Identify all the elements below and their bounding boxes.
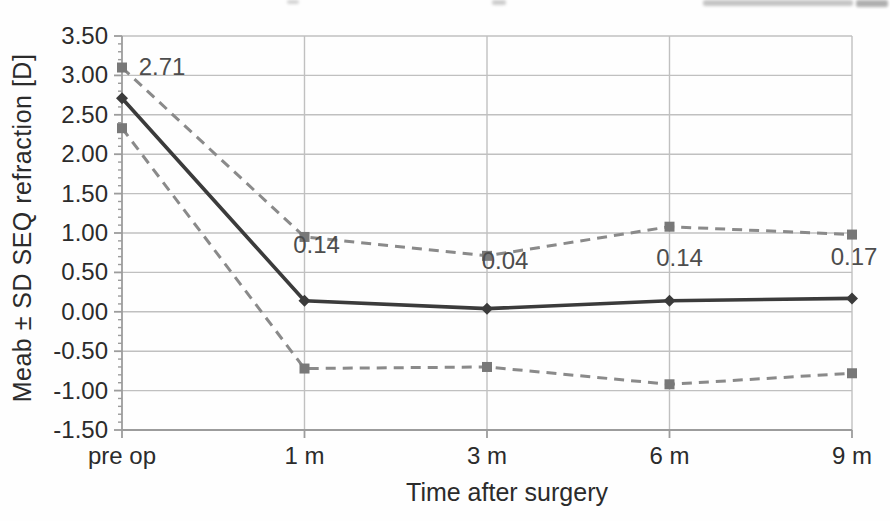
square-marker-mean-minus-sd bbox=[117, 123, 127, 133]
data-label: 0.14 bbox=[656, 244, 703, 271]
y-tick-label: 0.00 bbox=[61, 298, 108, 325]
x-tick-label: 3 m bbox=[467, 442, 507, 469]
data-label: 0.14 bbox=[293, 231, 340, 258]
x-tick-label: 6 m bbox=[649, 442, 689, 469]
chart-figure: 3.503.002.502.001.501.000.500.00-0.50-1.… bbox=[0, 0, 890, 521]
y-tick-label: 1.50 bbox=[61, 180, 108, 207]
y-tick-label: 2.50 bbox=[61, 101, 108, 128]
square-marker-mean-minus-sd bbox=[482, 362, 492, 372]
y-tick-label: 2.00 bbox=[61, 140, 108, 167]
data-label: 2.71 bbox=[139, 53, 186, 80]
y-tick-label: -0.50 bbox=[53, 337, 108, 364]
y-tick-label: -1.50 bbox=[53, 416, 108, 443]
x-tick-label: 9 m bbox=[832, 442, 872, 469]
y-tick-label: 0.50 bbox=[61, 258, 108, 285]
y-tick-label: -1.00 bbox=[53, 377, 108, 404]
diamond-marker-mean bbox=[846, 292, 858, 304]
diamond-marker-mean bbox=[481, 303, 493, 315]
square-marker-mean-minus-sd bbox=[300, 364, 310, 374]
square-marker-mean-minus-sd bbox=[847, 368, 857, 378]
line-chart: 3.503.002.502.001.501.000.500.00-0.50-1.… bbox=[0, 0, 890, 521]
square-marker-mean-plus-sd bbox=[847, 230, 857, 240]
y-tick-label: 3.00 bbox=[61, 61, 108, 88]
data-label: 0.04 bbox=[482, 247, 529, 274]
square-marker-mean-plus-sd bbox=[665, 222, 675, 232]
x-tick-label: 1 m bbox=[284, 442, 324, 469]
y-axis-title: Meab ± SD SEQ refraction [D] bbox=[8, 54, 37, 403]
x-axis-title: Time after surgery bbox=[406, 478, 608, 507]
x-tick-label: pre op bbox=[88, 442, 156, 469]
data-label: 0.17 bbox=[831, 243, 878, 270]
y-tick-label: 3.50 bbox=[61, 22, 108, 49]
y-tick-label: 1.00 bbox=[61, 219, 108, 246]
square-marker-mean-minus-sd bbox=[665, 379, 675, 389]
diamond-marker-mean bbox=[664, 295, 676, 307]
square-marker-mean-plus-sd bbox=[117, 63, 127, 73]
